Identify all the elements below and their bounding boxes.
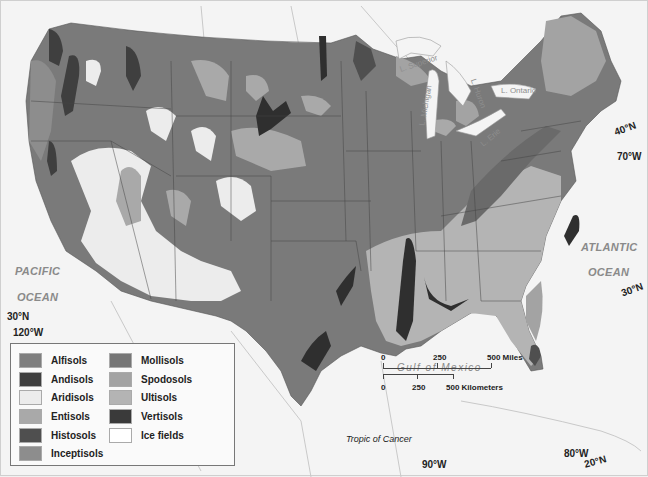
legend-item-inceptisols: Inceptisols — [19, 444, 103, 463]
legend-label: Ultisols — [141, 392, 177, 403]
lon-120w-label: 120°W — [13, 327, 43, 338]
alfisols-swatch — [19, 353, 42, 368]
inceptisols-swatch — [19, 446, 42, 461]
legend-column-2: Mollisols Spodosols Ultisols Vertisols I… — [109, 351, 192, 444]
scale-km-0: 0 — [381, 383, 385, 392]
legend-label: Histosols — [51, 430, 96, 441]
aridisols-swatch — [19, 390, 42, 405]
tick — [417, 374, 418, 379]
legend-label: Mollisols — [141, 355, 184, 366]
pacific-label-1: PACIFIC — [15, 265, 60, 277]
pacific-label-2: OCEAN — [17, 291, 58, 303]
legend-item-ultisols: Ultisols — [109, 388, 192, 407]
tick — [453, 374, 454, 379]
scale-miles-250: 250 — [433, 353, 446, 362]
tick — [491, 363, 492, 368]
lon-90w-label: 90°W — [422, 459, 447, 470]
tick — [383, 374, 384, 379]
legend-item-aridisols: Aridisols — [19, 388, 103, 407]
lake-ontario-label: L. Ontario — [501, 86, 536, 95]
scale-miles-0: 0 — [381, 353, 385, 362]
atlantic-label-2: OCEAN — [588, 266, 629, 278]
legend-item-ice-fields: Ice fields — [109, 426, 192, 445]
tick — [383, 363, 384, 368]
ice-fields-swatch — [109, 428, 132, 443]
scale-bar: 0 250 500 Miles 0 250 500 Kilometers — [379, 353, 539, 415]
lat-30n-west-label: 30°N — [7, 311, 29, 322]
scale-km-250: 250 — [412, 383, 425, 392]
legend-column-1: Alfisols Andisols Aridisols Entisols His… — [19, 351, 103, 463]
scale-miles-500: 500 Miles — [487, 353, 523, 362]
legend-item-entisols: Entisols — [19, 407, 103, 426]
legend-label: Alfisols — [51, 355, 87, 366]
legend: Alfisols Andisols Aridisols Entisols His… — [10, 343, 235, 466]
legend-item-andisols: Andisols — [19, 370, 103, 389]
histosols-swatch — [19, 428, 42, 443]
scale-km-500: 500 Kilometers — [446, 383, 503, 392]
scale-km-bar — [383, 374, 453, 380]
legend-item-vertisols: Vertisols — [109, 407, 192, 426]
legend-label: Entisols — [51, 411, 90, 422]
ultisols-swatch — [109, 390, 132, 405]
legend-label: Spodosols — [141, 374, 192, 385]
mollisols-swatch — [109, 353, 132, 368]
legend-label: Andisols — [51, 374, 93, 385]
legend-item-alfisols: Alfisols — [19, 351, 103, 370]
vertisols-swatch — [109, 409, 132, 424]
legend-label: Aridisols — [51, 392, 94, 403]
legend-label: Ice fields — [141, 430, 184, 441]
legend-label: Inceptisols — [51, 448, 103, 459]
spodosols-swatch — [109, 372, 132, 387]
tropic-of-cancer-label: Tropic of Cancer — [346, 434, 412, 444]
legend-item-spodosols: Spodosols — [109, 370, 192, 389]
tick — [437, 363, 438, 368]
legend-item-mollisols: Mollisols — [109, 351, 192, 370]
lon-70w-label: 70°W — [617, 151, 642, 162]
entisols-swatch — [19, 409, 42, 424]
legend-item-histosols: Histosols — [19, 426, 103, 445]
legend-label: Vertisols — [141, 411, 183, 422]
andisols-swatch — [19, 372, 42, 387]
atlantic-label-1: ATLANTIC — [581, 241, 638, 253]
